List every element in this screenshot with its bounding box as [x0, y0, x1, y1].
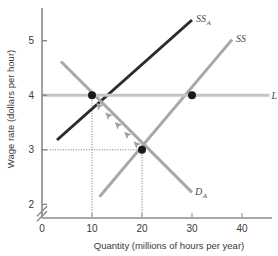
curve-label-ss: SS	[236, 33, 246, 44]
curve-label-d-a: DA	[194, 186, 208, 200]
x-axis-title: Quantity (millions of hours per year)	[94, 240, 244, 251]
guide-lines-layer	[42, 95, 142, 218]
labels-layer: 2345010203040SSASSDALSQuantity (millions…	[5, 13, 277, 251]
x-tick-label-0: 0	[39, 223, 45, 234]
data-point-equilibrium-short-run	[88, 91, 96, 99]
curve-ss-a	[57, 20, 192, 140]
chart-canvas: 2345010203040SSASSDALSQuantity (millions…	[0, 0, 277, 256]
x-tick-label-10: 10	[86, 223, 98, 234]
y-axis-title: Wage rate (dollars per hour)	[5, 50, 16, 168]
curve-label-ss-a: SSA	[196, 13, 212, 27]
economics-supply-demand-chart: 2345010203040SSASSDALSQuantity (millions…	[0, 0, 277, 256]
adjustment-arrows	[94, 100, 141, 148]
y-tick-label-5: 5	[28, 35, 34, 46]
curve-label-ls: LS	[271, 90, 278, 101]
curve-d-a	[61, 61, 192, 192]
data-point-equilibrium-long-run	[188, 91, 196, 99]
x-tick-label-20: 20	[136, 223, 148, 234]
y-tick-label-4: 4	[28, 90, 34, 101]
y-tick-label-3: 3	[28, 144, 34, 155]
x-tick-label-30: 30	[186, 223, 198, 234]
curves-layer	[42, 20, 270, 197]
data-point-equilibrium-low-wage	[138, 146, 146, 154]
x-tick-label-40: 40	[236, 223, 248, 234]
y-tick-label-2: 2	[28, 199, 34, 210]
